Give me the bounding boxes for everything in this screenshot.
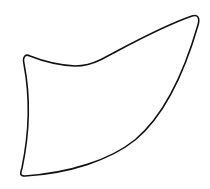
closed-curved-shape [21,15,199,176]
drawing-canvas [0,0,210,189]
outline-shape-svg [0,0,210,189]
